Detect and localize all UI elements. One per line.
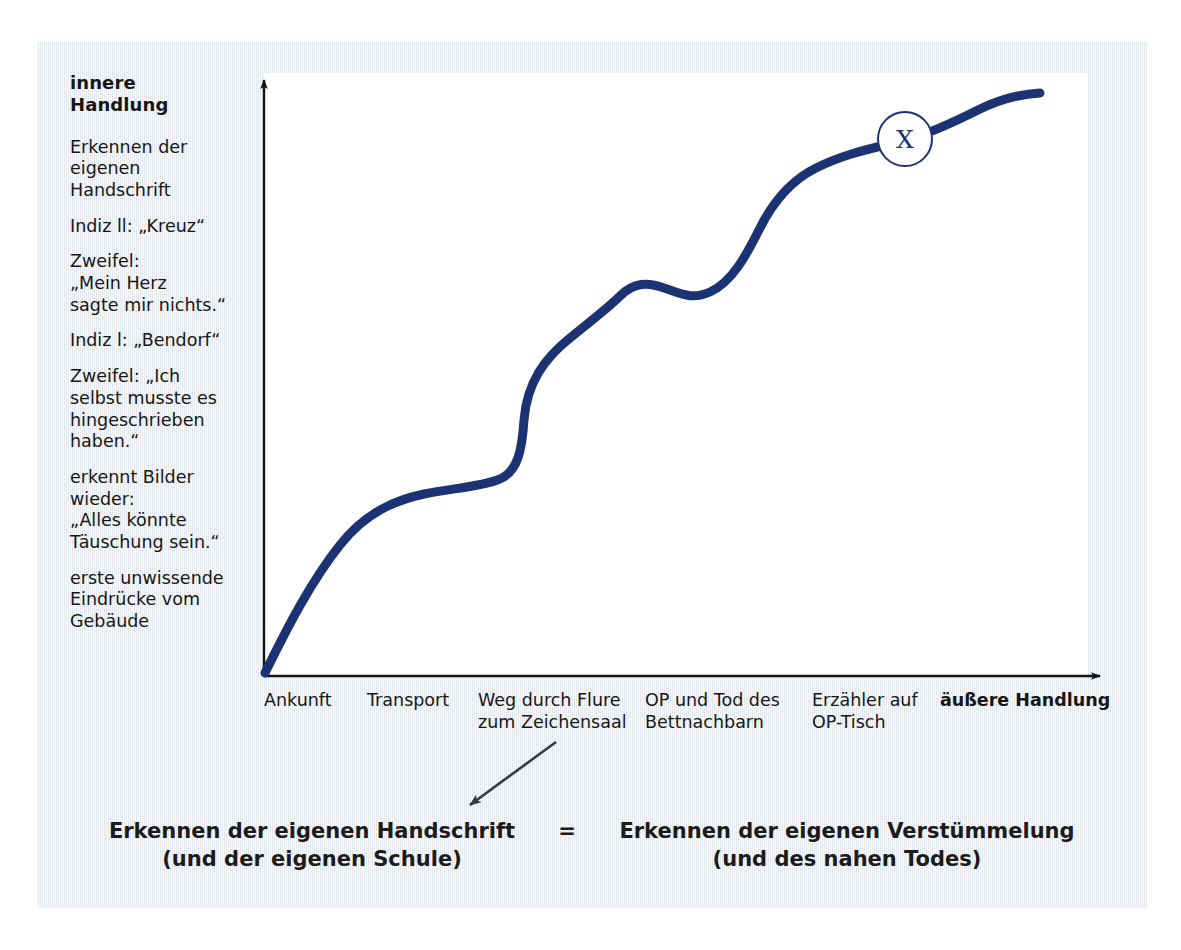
y-label-erste-eindruecke: erste unwissende Eindrücke vom Gebäude <box>70 568 252 633</box>
y-label-zweifel-mein-herz: Zweifel: „Mein Herz sagte mir nichts.“ <box>70 251 252 316</box>
caption-equals-sign: = <box>522 818 612 846</box>
y-label-indiz-1-bendorf: Indiz l: „Bendorf“ <box>70 330 252 352</box>
y-axis-label-column: innere Handlung Erkennen der eigenen Han… <box>70 72 252 647</box>
y-axis-title: innere Handlung <box>70 72 252 117</box>
x-label-erzaehler-auf-op-tisch: Erzähler auf OP-Tisch <box>812 690 918 733</box>
x-label-op-und-tod: OP und Tod des Bettnachbarn <box>645 690 780 733</box>
caption-right-text: Erkennen der eigenen Verstümmelung (und … <box>612 818 1082 873</box>
marker-x-label: X <box>896 127 914 152</box>
marker-x-circle: X <box>877 111 933 167</box>
bottom-caption: Erkennen der eigenen Handschrift (und de… <box>37 818 1147 873</box>
y-label-zweifel-ich-selbst: Zweifel: „Ich selbst musste es hingeschr… <box>70 366 252 453</box>
y-label-indiz-2-kreuz: Indiz ll: „Kreuz“ <box>70 216 252 238</box>
y-label-erkennt-bilder-wieder: erkennt Bilder wieder: „Alles könnte Täu… <box>70 467 252 554</box>
caption-left-text: Erkennen der eigenen Handschrift (und de… <box>102 818 522 873</box>
y-label-erkennen-handschrift: Erkennen der eigenen Handschrift <box>70 137 252 202</box>
plot-canvas <box>264 73 1088 677</box>
x-label-ankunft: Ankunft <box>264 690 332 712</box>
x-label-transport: Transport <box>367 690 449 712</box>
x-axis-title: äußere Handlung <box>940 690 1110 712</box>
x-label-weg-durch-flure: Weg durch Flure zum Zeichensaal <box>478 690 627 733</box>
